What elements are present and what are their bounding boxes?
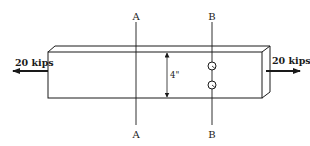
plate-top-face: [48, 46, 270, 52]
load-arrow-right: 20 kips: [266, 55, 310, 71]
plate-front-face: [48, 52, 262, 98]
section-label-b-top: B: [208, 11, 215, 22]
plate-member: [48, 46, 270, 98]
width-dimension: 4": [167, 53, 179, 97]
section-label-a-top: A: [131, 11, 140, 22]
diagram-canvas: A A B B 4" 20 kips 20 kips: [0, 0, 310, 146]
bolt-hole-bottom: [208, 81, 216, 89]
load-label-left: 20 kips: [15, 57, 54, 68]
section-label-a-bottom: A: [131, 129, 140, 140]
load-label-right: 20 kips: [272, 55, 310, 66]
width-dimension-label: 4": [170, 70, 179, 80]
section-label-b-bottom: B: [208, 129, 215, 140]
bolt-hole-top: [208, 62, 216, 70]
